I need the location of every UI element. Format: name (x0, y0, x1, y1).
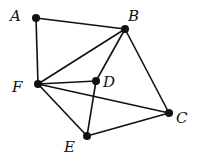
edge-a-f (36, 18, 38, 84)
node-label-f: F (11, 78, 23, 96)
edge-f-e (38, 84, 87, 136)
node-label-c: C (176, 109, 188, 127)
node-label-b: B (127, 7, 139, 25)
edge-b-c (125, 29, 169, 113)
node-f (34, 80, 42, 88)
node-d (92, 77, 100, 85)
node-label-e: E (63, 138, 75, 156)
node-e (83, 132, 91, 140)
edge-a-b (36, 18, 125, 29)
edge-e-c (87, 113, 169, 136)
node-c (165, 109, 173, 117)
node-label-a: A (8, 7, 21, 25)
node-label-d: D (102, 73, 115, 91)
node-b (121, 25, 129, 33)
node-a (32, 14, 40, 22)
graph-diagram: ABCDEF (0, 0, 200, 158)
edge-f-d (38, 81, 96, 84)
edge-d-e (87, 81, 96, 136)
